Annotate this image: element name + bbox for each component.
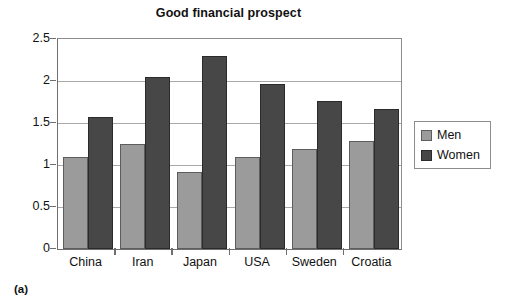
x-tick-label-japan: Japan xyxy=(171,255,228,269)
bar-group xyxy=(344,39,401,249)
x-tick-label-croatia: Croatia xyxy=(343,255,400,269)
bar-women-sweden xyxy=(317,101,342,249)
bar-group xyxy=(230,39,287,249)
y-tick-mark xyxy=(50,164,56,166)
y-axis: 00.511.522.5 xyxy=(0,38,50,248)
y-tick-mark xyxy=(50,248,56,250)
y-tick-mark xyxy=(50,38,56,40)
bar-women-china xyxy=(88,117,113,249)
y-tick-mark xyxy=(50,122,56,124)
chart-title: Good financial prospect xyxy=(57,6,400,20)
x-axis-separator xyxy=(229,248,231,255)
bar-men-croatia xyxy=(349,141,374,249)
legend-label-women: Women xyxy=(437,149,480,162)
bar-group xyxy=(58,39,115,249)
bar-men-usa xyxy=(235,157,260,249)
bar-group xyxy=(115,39,172,249)
figure-bar-chart: Good financial prospect 00.511.522.5 Chi… xyxy=(0,0,510,306)
x-tick-label-china: China xyxy=(57,255,114,269)
y-tick-label: 1.5 xyxy=(4,115,50,129)
bar-women-iran xyxy=(145,77,170,249)
bar-men-china xyxy=(63,157,88,249)
bar-women-japan xyxy=(202,56,227,249)
x-tick-label-iran: Iran xyxy=(114,255,171,269)
legend-item-men: Men xyxy=(421,127,461,144)
bar-group xyxy=(287,39,344,249)
legend: Men Women xyxy=(414,121,491,169)
y-tick-label: 2 xyxy=(4,73,50,87)
bar-group xyxy=(172,39,229,249)
bar-men-iran xyxy=(120,144,145,249)
x-axis-separator xyxy=(343,248,345,255)
legend-label-men: Men xyxy=(437,129,461,142)
bar-women-usa xyxy=(260,84,285,249)
y-tick-label: 2.5 xyxy=(4,31,50,45)
figure-caption: (a) xyxy=(14,283,28,295)
y-tick-label: 0 xyxy=(4,241,50,255)
plot-area xyxy=(57,38,402,250)
legend-swatch-men-icon xyxy=(421,130,432,141)
x-axis-separator xyxy=(114,248,116,255)
bar-men-japan xyxy=(177,172,202,249)
y-tick-mark xyxy=(50,206,56,208)
legend-swatch-women-icon xyxy=(421,150,432,161)
x-tick-label-usa: USA xyxy=(229,255,286,269)
bar-women-croatia xyxy=(374,109,399,249)
x-tick-label-sweden: Sweden xyxy=(286,255,343,269)
y-tick-label: 1 xyxy=(4,157,50,171)
y-tick-mark xyxy=(50,80,56,82)
y-tick-label: 0.5 xyxy=(4,199,50,213)
x-axis-separator xyxy=(286,248,288,255)
x-axis-separator xyxy=(171,248,173,255)
x-axis-labels: ChinaIranJapanUSASwedenCroatia xyxy=(57,255,400,275)
bar-men-sweden xyxy=(292,149,317,249)
legend-item-women: Women xyxy=(421,147,480,164)
